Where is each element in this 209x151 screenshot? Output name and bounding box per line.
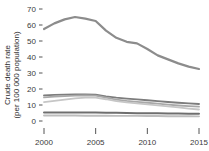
x-tick-label: 2010	[138, 138, 156, 147]
y-axis-title-line2: (per 100 000 population)	[12, 31, 21, 119]
y-tick-label: 60	[27, 21, 36, 30]
y-tick-label: 30	[27, 69, 36, 78]
y-tick-label: 70	[27, 5, 36, 14]
y-tick-label: 40	[27, 53, 36, 62]
y-axis-ticks: 010203040506070	[27, 5, 42, 126]
series-line-series-6	[44, 116, 199, 117]
data-series-group	[44, 17, 199, 116]
x-tick-label: 2005	[87, 138, 105, 147]
x-axis-ticks: 2000200520102015	[35, 128, 208, 147]
line-chart: Crude death rate (per 100 000 population…	[0, 0, 209, 151]
x-tick-label: 2015	[190, 138, 208, 147]
y-tick-label: 0	[32, 117, 37, 126]
series-line-series-1	[44, 17, 199, 69]
y-tick-label: 10	[27, 101, 36, 110]
series-line-series-5	[44, 113, 199, 114]
y-tick-label: 20	[27, 85, 36, 94]
chart-container: Crude death rate (per 100 000 population…	[0, 0, 209, 151]
y-axis-title: Crude death rate (per 100 000 population…	[3, 31, 21, 119]
x-tick-label: 2000	[35, 138, 53, 147]
y-tick-label: 50	[27, 37, 36, 46]
y-axis-title-line1: Crude death rate	[3, 44, 12, 105]
